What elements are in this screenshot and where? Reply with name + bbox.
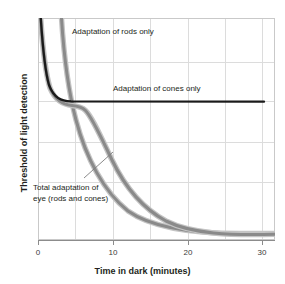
- annotation-total-adaptation: Total adaptation of eye (rods and cones): [33, 182, 111, 204]
- y-axis-title: Threshold of light detection: [19, 33, 29, 233]
- plot-canvas: [0, 0, 285, 284]
- x-axis-title: Time in dark (minutes): [0, 266, 285, 276]
- annotation-rods-only: Adaptation of rods only: [72, 26, 154, 37]
- dark-adaptation-chart: Threshold of light detection Time in dar…: [0, 0, 285, 284]
- x-tick-label-0: 0: [28, 248, 48, 257]
- annotation-cones-only: Adaptation of cones only: [113, 83, 201, 94]
- x-axis-line: [38, 240, 275, 245]
- x-tick-label-30: 30: [252, 248, 272, 257]
- plot-background: [38, 18, 275, 240]
- x-tick-label-20: 20: [178, 248, 198, 257]
- x-tick-label-10: 10: [103, 248, 123, 257]
